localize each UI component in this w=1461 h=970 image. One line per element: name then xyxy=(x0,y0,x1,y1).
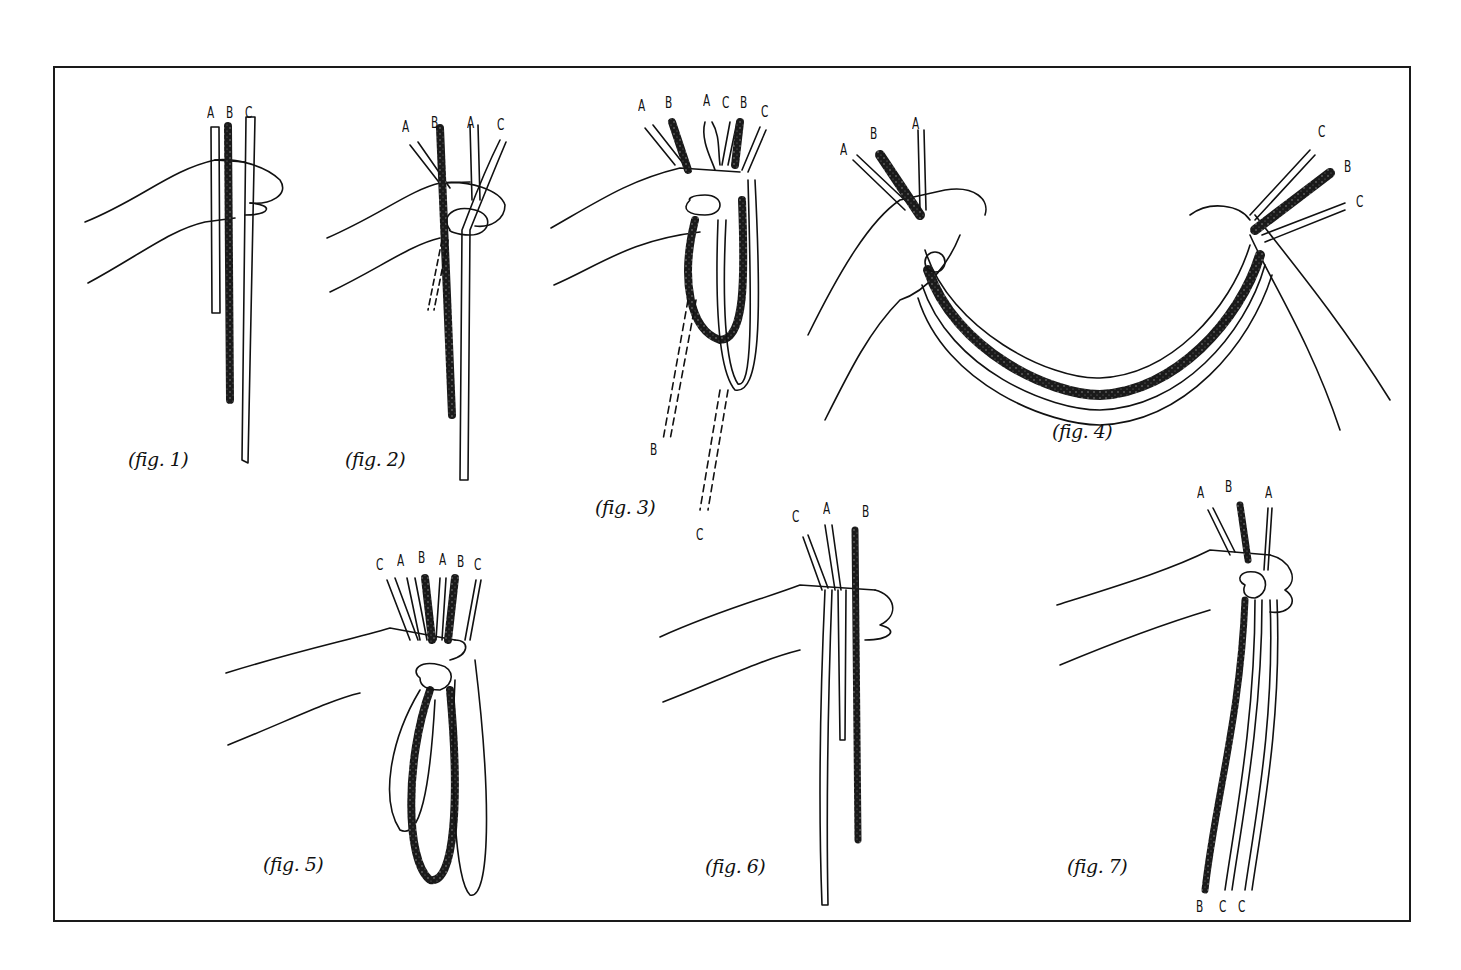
fig7-label-b: B xyxy=(1225,480,1232,495)
fig1-label-a: A xyxy=(207,106,214,121)
fig6-caption: (fig. 6) xyxy=(705,857,765,876)
fig5-label-a2: A xyxy=(439,553,446,568)
fig3-label-a1: A xyxy=(638,99,645,114)
figure-5-drawing xyxy=(226,578,486,895)
figure-7-drawing xyxy=(1057,505,1292,890)
fig4-label-b: B xyxy=(870,127,877,142)
fig4-label-a2: A xyxy=(912,117,919,132)
braiding-illustration xyxy=(0,0,1461,970)
fig7-label-a2: A xyxy=(1265,486,1272,501)
fig5-label-c1: C xyxy=(376,558,383,573)
fig3-label-c2: C xyxy=(761,105,768,120)
fig3-label-bottom-b: B xyxy=(650,443,657,458)
figure-3-drawing xyxy=(551,122,766,510)
fig5-caption: (fig. 5) xyxy=(263,855,323,874)
fig5-label-b2: B xyxy=(457,555,464,570)
fig3-label-a2: A xyxy=(703,94,710,109)
fig7-label-bottom-c2: C xyxy=(1238,900,1245,915)
fig7-label-bottom-c1: C xyxy=(1219,900,1226,915)
fig1-label-c: C xyxy=(245,106,252,121)
fig4-caption: (fig. 4) xyxy=(1052,422,1112,441)
fig4-label-b2: B xyxy=(1344,160,1351,175)
fig4-label-a1: A xyxy=(840,143,847,158)
fig3-label-bottom-c: C xyxy=(696,528,703,543)
fig7-label-a1: A xyxy=(1197,486,1204,501)
fig4-label-c2: C xyxy=(1356,195,1363,210)
figure-2-drawing xyxy=(327,125,506,480)
figure-1-drawing xyxy=(85,117,283,463)
fig2-label-a1: A xyxy=(402,120,409,135)
fig6-label-b: B xyxy=(862,505,869,520)
fig2-label-c: C xyxy=(497,118,504,133)
fig1-caption: (fig. 1) xyxy=(128,450,188,469)
fig3-caption: (fig. 3) xyxy=(595,498,655,517)
fig3-label-c1: C xyxy=(722,96,729,111)
fig2-caption: (fig. 2) xyxy=(345,450,405,469)
fig3-label-b1: B xyxy=(665,96,672,111)
fig5-label-a1: A xyxy=(397,554,404,569)
fig3-label-b2: B xyxy=(740,96,747,111)
fig6-label-c: C xyxy=(792,510,799,525)
fig1-label-b: B xyxy=(226,106,233,121)
fig5-label-c2: C xyxy=(474,558,481,573)
fig2-label-b: B xyxy=(431,116,438,131)
figure-4-drawing xyxy=(808,130,1390,430)
fig4-label-c1: C xyxy=(1318,125,1325,140)
fig7-label-bottom-b: B xyxy=(1196,900,1203,915)
fig2-label-a2: A xyxy=(467,116,474,131)
fig7-caption: (fig. 7) xyxy=(1067,857,1127,876)
fig6-label-a: A xyxy=(823,502,830,517)
fig5-label-b1: B xyxy=(418,551,425,566)
figure-6-drawing xyxy=(660,525,893,905)
